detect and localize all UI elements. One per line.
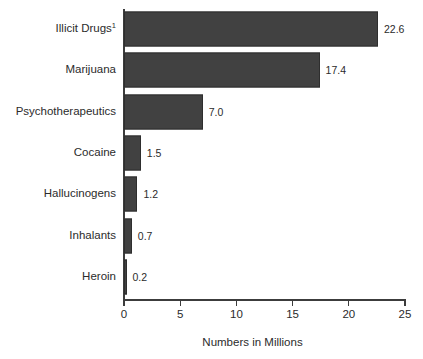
bar-row: Marijuana17.4 (0, 50, 423, 90)
bar-value-label: 0.7 (138, 230, 153, 242)
bar-category-label: Illicit Drugs1 (0, 22, 116, 35)
x-tick-label: 20 (342, 308, 355, 320)
bar (124, 53, 320, 88)
bar-category-label: Inhalants (0, 229, 116, 242)
bar-category-label: Psychotherapeutics (0, 105, 116, 118)
plot-area: Illicit Drugs122.6Marijuana17.4Psychothe… (0, 0, 423, 300)
bar-category-label: Cocaine (0, 146, 116, 159)
footnote-marker: 1 (112, 21, 116, 30)
x-tick-label: 0 (121, 308, 127, 320)
x-tick-mark (348, 300, 349, 306)
bar-category-label: Hallucinogens (0, 188, 116, 201)
x-tick-mark (180, 300, 181, 306)
bar-value-label: 1.5 (147, 147, 162, 159)
bar-row: Heroin0.2 (0, 257, 423, 297)
x-tick-mark (292, 300, 293, 306)
bar-value-label: 1.2 (143, 188, 158, 200)
x-axis-title: Numbers in Millions (0, 336, 423, 348)
x-axis-line (123, 299, 406, 301)
bar-value-label: 7.0 (209, 106, 224, 118)
bar (124, 135, 141, 170)
bar (124, 218, 132, 253)
bar (124, 177, 137, 212)
bar-row: Hallucinogens1.2 (0, 174, 423, 214)
bar-row: Inhalants0.7 (0, 216, 423, 256)
bar-value-label: 0.2 (133, 271, 148, 283)
bar-value-label: 22.6 (384, 23, 404, 35)
x-tick-mark (404, 300, 405, 306)
x-tick-label: 5 (177, 308, 183, 320)
bar-category-label: Marijuana (0, 64, 116, 77)
bar-row: Illicit Drugs122.6 (0, 9, 423, 49)
bar-value-label: 17.4 (326, 64, 346, 76)
bar-chart: Illicit Drugs122.6Marijuana17.4Psychothe… (0, 0, 423, 359)
bar (124, 12, 378, 47)
bar-row: Cocaine1.5 (0, 133, 423, 173)
bar-row: Psychotherapeutics7.0 (0, 92, 423, 132)
x-axis-title-text: Numbers in Millions (202, 336, 302, 348)
x-tick-label: 25 (399, 308, 412, 320)
x-tick-mark (123, 300, 124, 306)
x-tick-mark (236, 300, 237, 306)
bar (124, 94, 203, 129)
bar-category-label: Heroin (0, 270, 116, 283)
x-tick-label: 10 (230, 308, 243, 320)
x-tick-label: 15 (286, 308, 299, 320)
bar (124, 259, 127, 294)
